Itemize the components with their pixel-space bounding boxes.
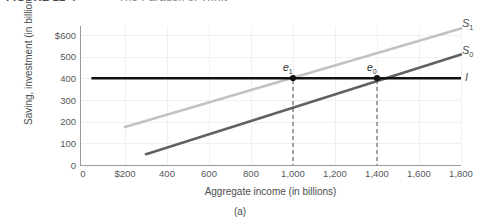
curve-s0	[146, 55, 461, 155]
figure-root: FIGURE 22-4 The Paradox of Thrift $600 5…	[0, 0, 480, 224]
curve-label-s0: S0	[462, 45, 474, 60]
figure-caption: (a)	[0, 206, 480, 217]
plot-area: $600 500 400 300 200 100 0 0 $200 400 60…	[0, 0, 480, 224]
equilibrium-label-e1: e1	[283, 62, 293, 77]
equilibrium-label-e0: e0	[367, 62, 377, 77]
curve-label-i-text: I	[465, 71, 468, 83]
equilibrium-label-e1-sub: 1	[289, 68, 293, 75]
x-axis-title: Aggregate income (in billions)	[80, 186, 461, 197]
equilibrium-label-e0-sub: 0	[373, 68, 377, 75]
curve-label-s0-sub: 0	[469, 50, 473, 59]
curve-label-s1: S1	[462, 18, 474, 33]
curve-label-i: I	[465, 72, 468, 83]
curve-label-s1-sub: 1	[469, 23, 473, 32]
y-axis-title: Saving, investment (in billions)	[23, 0, 34, 138]
